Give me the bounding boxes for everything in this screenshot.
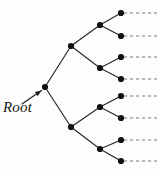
dashed-continuations-group xyxy=(124,13,157,161)
edge-l2b-leaf7 xyxy=(100,140,121,149)
internal-node-l2b xyxy=(97,146,103,152)
tree-edges-group xyxy=(45,13,121,161)
edge-u2b-leaf4 xyxy=(100,68,121,79)
leaf-node-4 xyxy=(118,76,124,82)
leaf-node-8 xyxy=(118,158,124,164)
tree-nodes-group xyxy=(42,10,124,164)
binary-tree-figure: Root xyxy=(0,0,158,171)
edge-u1-u2a xyxy=(71,25,100,46)
edge-u2a-leaf1 xyxy=(100,13,121,25)
leaf-node-7 xyxy=(118,137,124,143)
edge-u2b-leaf3 xyxy=(100,57,121,68)
root-node xyxy=(42,84,48,90)
internal-node-u1 xyxy=(68,43,74,49)
internal-node-l2a xyxy=(97,104,103,110)
edge-l2a-leaf6 xyxy=(100,107,121,118)
root-label: Root xyxy=(3,99,32,116)
internal-node-u2b xyxy=(97,65,103,71)
leaf-node-5 xyxy=(118,93,124,99)
leaf-node-2 xyxy=(118,33,124,39)
leaf-node-1 xyxy=(118,10,124,16)
leaf-node-3 xyxy=(118,54,124,60)
edge-l2b-leaf8 xyxy=(100,149,121,161)
internal-node-l1 xyxy=(68,124,74,130)
edge-root-u1 xyxy=(45,46,71,87)
edge-l1-l2a xyxy=(71,107,100,127)
leaf-node-6 xyxy=(118,115,124,121)
arrow-head xyxy=(35,91,42,97)
tree-diagram-canvas xyxy=(0,0,158,171)
internal-node-u2a xyxy=(97,22,103,28)
edge-root-l1 xyxy=(45,87,71,127)
edge-u2a-leaf2 xyxy=(100,25,121,36)
edge-l1-l2b xyxy=(71,127,100,149)
edge-l2a-leaf5 xyxy=(100,96,121,107)
edge-u1-u2b xyxy=(71,46,100,68)
